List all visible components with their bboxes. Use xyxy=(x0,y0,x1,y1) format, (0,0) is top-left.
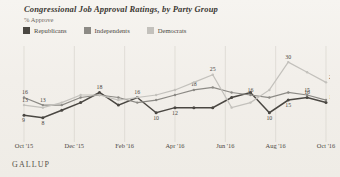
data-label: 16 xyxy=(248,87,254,93)
data-point[interactable] xyxy=(212,74,214,76)
x-axis-tick-label: Oct '16 xyxy=(317,142,335,149)
chart-legend: Republicans Independents Democrats xyxy=(23,27,203,34)
legend-label-democrats: Democrats xyxy=(158,27,187,34)
data-point[interactable] xyxy=(98,94,100,96)
data-point[interactable] xyxy=(155,94,157,96)
data-label: 15 xyxy=(304,87,310,93)
data-label: 30 xyxy=(285,54,291,60)
data-point[interactable] xyxy=(306,71,308,73)
data-point[interactable] xyxy=(268,96,270,98)
data-point[interactable] xyxy=(136,96,138,98)
data-point[interactable] xyxy=(287,61,289,63)
legend-swatch-democrats xyxy=(147,27,154,34)
data-point[interactable] xyxy=(287,91,289,93)
data-label: 14 xyxy=(329,94,330,100)
data-point[interactable] xyxy=(23,104,25,106)
data-point[interactable] xyxy=(230,96,233,99)
legend-swatch-independents xyxy=(84,27,91,34)
data-point[interactable] xyxy=(193,89,195,91)
data-label: 9 xyxy=(22,117,25,123)
legend-item-independents[interactable]: Independents xyxy=(84,27,130,34)
line-chart: 981810121015161416131816151316253022 xyxy=(20,46,330,142)
x-axis-tick-label: Aug '16 xyxy=(266,142,286,149)
data-point[interactable] xyxy=(192,106,195,109)
data-point[interactable] xyxy=(249,94,251,96)
data-label: 22 xyxy=(329,74,330,80)
data-point[interactable] xyxy=(79,94,81,96)
data-label: 16 xyxy=(22,89,28,95)
data-point[interactable] xyxy=(117,96,119,98)
data-label: 10 xyxy=(266,115,272,121)
data-point[interactable] xyxy=(79,96,81,98)
legend-label-independents: Independents xyxy=(95,27,130,34)
data-point[interactable] xyxy=(79,101,82,104)
data-point[interactable] xyxy=(42,106,44,108)
data-label: 13 xyxy=(22,97,28,103)
data-point[interactable] xyxy=(193,81,195,83)
legend-item-democrats[interactable]: Democrats xyxy=(147,27,187,34)
data-point[interactable] xyxy=(117,104,120,107)
data-point[interactable] xyxy=(136,101,138,103)
legend-swatch-republicans xyxy=(23,27,30,34)
data-point[interactable] xyxy=(211,106,214,109)
data-label: 12 xyxy=(172,110,178,116)
legend-label-republicans: Republicans xyxy=(34,27,67,34)
data-point[interactable] xyxy=(117,99,119,101)
x-axis-tick-label: Apr '16 xyxy=(165,142,184,149)
data-label: 15 xyxy=(285,102,291,108)
data-point[interactable] xyxy=(174,89,176,91)
data-point[interactable] xyxy=(174,94,176,96)
data-point[interactable] xyxy=(325,101,328,104)
x-axis-tick-label: Jun '16 xyxy=(216,142,234,149)
data-point[interactable] xyxy=(60,109,63,112)
gallup-brand: GALLUP xyxy=(12,160,50,169)
data-point[interactable] xyxy=(268,89,270,91)
data-point[interactable] xyxy=(230,106,232,108)
data-label: 8 xyxy=(41,120,44,126)
data-label: 25 xyxy=(210,66,216,72)
data-point[interactable] xyxy=(61,101,63,103)
page-title: Congressional Job Approval Ratings, by P… xyxy=(24,4,218,14)
data-point[interactable] xyxy=(155,99,157,101)
x-axis-tick-label: Dec '15 xyxy=(65,142,84,149)
chart-subtitle: % Approve xyxy=(24,16,53,23)
data-point[interactable] xyxy=(42,104,44,106)
data-point[interactable] xyxy=(230,91,232,93)
data-label: 10 xyxy=(153,115,159,121)
x-axis-tick-label: Feb '16 xyxy=(115,142,134,149)
data-point[interactable] xyxy=(249,101,251,103)
data-point[interactable] xyxy=(306,94,308,96)
chart-plot-area: 981810121015161416131816151316253022 xyxy=(20,46,330,142)
legend-item-republicans[interactable]: Republicans xyxy=(23,27,67,34)
x-axis: Oct '15Dec '15Feb '16Apr '16Jun '16Aug '… xyxy=(20,140,330,154)
data-label: 13 xyxy=(40,97,46,103)
data-point[interactable] xyxy=(98,91,101,94)
data-point[interactable] xyxy=(325,81,327,83)
data-point[interactable] xyxy=(61,104,63,106)
data-point[interactable] xyxy=(306,96,309,99)
x-axis-tick-label: Oct '15 xyxy=(15,142,33,149)
data-label: 18 xyxy=(97,84,103,90)
data-label: 16 xyxy=(134,89,140,95)
data-point[interactable] xyxy=(325,99,327,101)
data-point[interactable] xyxy=(212,86,214,88)
